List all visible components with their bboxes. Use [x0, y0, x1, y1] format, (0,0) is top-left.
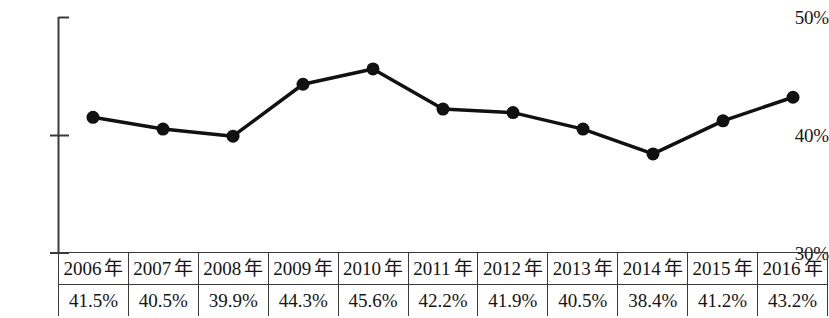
table-cell-year: 2011年 — [408, 253, 478, 285]
table-cell-year: 2014年 — [618, 253, 688, 285]
data-point — [577, 123, 590, 136]
table-cell-value: 40.5% — [128, 285, 198, 317]
year-unit-label: 年 — [241, 258, 263, 279]
year-unit-label: 年 — [521, 258, 543, 279]
table-cell-value: 45.6% — [338, 285, 408, 317]
table-cell-year: 2013年 — [548, 253, 618, 285]
table-row-years: 2006年2007年2008年2009年2010年2011年2012年2013年… — [59, 253, 828, 285]
year-unit-label: 年 — [101, 258, 123, 279]
table-cell-year: 2016年 — [758, 253, 828, 285]
table-cell-year: 2012年 — [478, 253, 548, 285]
data-point — [297, 78, 310, 91]
table-cell-value: 44.3% — [268, 285, 338, 317]
table-cell-value: 41.9% — [478, 285, 548, 317]
table-cell-value: 41.5% — [59, 285, 129, 317]
year-unit-label: 年 — [381, 258, 403, 279]
table-cell-value: 38.4% — [618, 285, 688, 317]
chart-page: 50% 40% 30% 2006年2007年2008年2009年2010年201… — [0, 0, 829, 318]
table-cell-year: 2015年 — [688, 253, 758, 285]
year-unit-label: 年 — [311, 258, 333, 279]
data-point — [647, 147, 660, 160]
table-cell-value: 42.2% — [408, 285, 478, 317]
year-unit-label: 年 — [731, 258, 753, 279]
data-point — [717, 114, 730, 127]
data-point-markers — [87, 62, 800, 160]
data-point — [507, 106, 520, 119]
line-chart: 50% 40% 30% — [0, 0, 829, 254]
data-point — [787, 91, 800, 104]
table-cell-value: 41.2% — [688, 285, 758, 317]
table-cell-value: 43.2% — [758, 285, 828, 317]
data-point — [87, 111, 100, 124]
table-cell-year: 2007年 — [128, 253, 198, 285]
year-unit-label: 年 — [801, 258, 823, 279]
table-cell-year: 2006年 — [59, 253, 129, 285]
table-cell-value: 40.5% — [548, 285, 618, 317]
data-point — [367, 62, 380, 75]
table-cell-year: 2008年 — [198, 253, 268, 285]
data-point — [437, 103, 450, 116]
data-point — [227, 130, 240, 143]
year-unit-label: 年 — [451, 258, 473, 279]
year-unit-label: 年 — [171, 258, 193, 279]
table-cell-year: 2010年 — [338, 253, 408, 285]
chart-plot-svg — [0, 0, 829, 254]
data-table: 2006年2007年2008年2009年2010年2011年2012年2013年… — [58, 252, 828, 316]
table-cell-year: 2009年 — [268, 253, 338, 285]
table-cell-value: 39.9% — [198, 285, 268, 317]
year-unit-label: 年 — [661, 258, 683, 279]
year-unit-label: 年 — [591, 258, 613, 279]
data-point — [157, 123, 170, 136]
table-row-values: 41.5%40.5%39.9%44.3%45.6%42.2%41.9%40.5%… — [59, 285, 828, 317]
